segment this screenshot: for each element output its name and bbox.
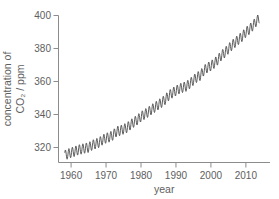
x-tick-label: 1980 bbox=[130, 170, 153, 181]
y-axis-title-line1: concentration of bbox=[1, 52, 13, 127]
x-tick-label: 1960 bbox=[60, 170, 83, 181]
co2-chart-figure: 320340360380400196019701980199020002010y… bbox=[0, 0, 279, 199]
x-tick-label: 2010 bbox=[235, 170, 258, 181]
x-tick-label: 1970 bbox=[95, 170, 118, 181]
co2-concentration-chart: 320340360380400196019701980199020002010y… bbox=[0, 0, 279, 199]
x-axis-title: year bbox=[154, 183, 175, 195]
y-tick-label: 400 bbox=[34, 10, 51, 21]
x-tick-label: 1990 bbox=[165, 170, 188, 181]
axes-frame bbox=[59, 16, 271, 163]
y-tick-label: 340 bbox=[34, 109, 51, 120]
co2-data-line bbox=[65, 15, 260, 159]
y-tick-label: 320 bbox=[34, 142, 51, 153]
y-tick-label: 360 bbox=[34, 76, 51, 87]
y-tick-label: 380 bbox=[34, 43, 51, 54]
x-tick-label: 2000 bbox=[200, 170, 223, 181]
y-axis-title-line2: CO₂ / ppm bbox=[14, 64, 26, 113]
